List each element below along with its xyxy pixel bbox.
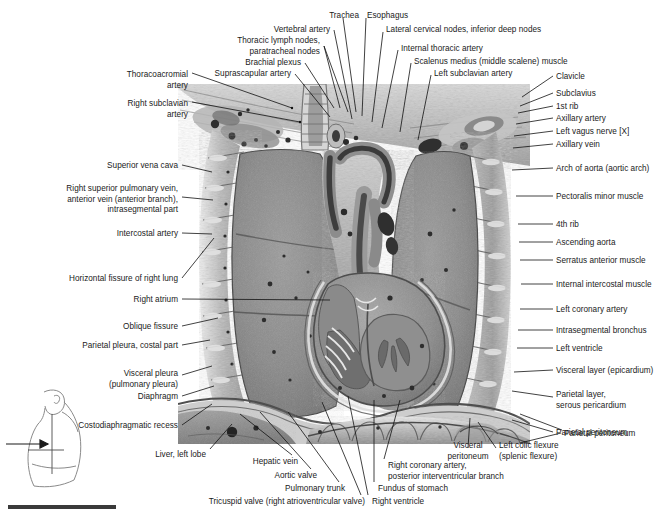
label-parietal-pleura-costal-part-line-0: Parietal pleura, costal part — [0, 341, 178, 352]
specimen-photograph — [178, 84, 530, 444]
label-left-vagus-nerve: Left vagus nerve [X] — [556, 127, 629, 138]
label-first-rib-line-0: 1st rib — [556, 102, 578, 113]
label-right-coronary-artery-line-1: posterior interventricular branch — [388, 472, 504, 483]
label-thoracic-lymph-nodes: Thoracic lymph nodes,paratracheal nodes — [0, 36, 320, 57]
label-esophagus: Esophagus — [367, 11, 408, 22]
label-clavicle-line-0: Clavicle — [556, 72, 585, 83]
label-internal-intercostal-muscle-line-0: Internal intercostal muscle — [556, 280, 652, 291]
label-left-subclavian-artery-line-0: Left subclavian artery — [434, 69, 512, 80]
label-parietal-layer-serous-pericardium-line-0: Parietal layer, — [556, 390, 626, 401]
label-fourth-rib: 4th rib — [556, 220, 579, 231]
label-parietal-peritoneum-bottom-line-0: Parietal peritoneum — [564, 429, 635, 440]
label-internal-thoracic-artery: Internal thoracic artery — [401, 44, 483, 55]
label-arch-of-aorta: Arch of aorta (aortic arch) — [556, 164, 649, 175]
label-right-superior-pulmonary-vein: Right superior pulmonary vein,anterior v… — [0, 184, 178, 216]
label-parietal-layer-serous-pericardium: Parietal layer,serous pericardium — [556, 390, 626, 411]
label-right-subclavian-artery-line-0: Right subclavian — [0, 99, 188, 110]
label-axillary-artery-line-0: Axillary artery — [556, 114, 606, 125]
label-vertebral-artery: Vertebral artery — [0, 25, 330, 36]
label-ascending-aorta-line-0: Ascending aorta — [556, 238, 615, 249]
label-thoracic-lymph-nodes-line-0: Thoracic lymph nodes, — [0, 36, 320, 47]
label-parietal-peritoneum-bottom: Parietal peritoneum — [564, 429, 635, 440]
label-right-ventricle-line-0: Right ventricle — [372, 497, 424, 508]
label-visceral-layer-epicardium: Visceral layer (epicardium) — [556, 366, 653, 377]
label-lateral-cervical-nodes: Lateral cervical nodes, inferior deep no… — [386, 25, 541, 36]
label-fundus-of-stomach: Fundus of stomach — [378, 484, 448, 495]
label-arch-of-aorta-line-0: Arch of aorta (aortic arch) — [556, 164, 649, 175]
label-right-atrium: Right atrium — [0, 295, 178, 306]
label-subclavius-line-0: Subclavius — [556, 89, 596, 100]
label-internal-intercostal-muscle: Internal intercostal muscle — [556, 280, 652, 291]
label-superior-vena-cava-line-0: Superior vena cava — [0, 161, 178, 172]
label-left-colic-flexure-line-0: Left colic flexure — [499, 441, 559, 452]
label-right-subclavian-artery: Right subclavianartery — [0, 99, 188, 120]
label-suprascapular-artery: Suprascapular artery — [0, 69, 291, 80]
label-right-atrium-line-0: Right atrium — [0, 295, 178, 306]
label-ascending-aorta: Ascending aorta — [556, 238, 615, 249]
label-serratus-anterior-muscle: Serratus anterior muscle — [556, 256, 646, 267]
label-intercostal-artery: Intercostal artery — [0, 229, 178, 240]
label-scalenus-medius-muscle: Scalenus medius (middle scalene) muscle — [414, 57, 568, 68]
label-parietal-layer-serous-pericardium-line-1: serous pericardium — [556, 401, 626, 412]
label-intrasegmental-bronchus: Intrasegmental bronchus — [556, 326, 647, 337]
label-visceral-layer-epicardium-line-0: Visceral layer (epicardium) — [556, 366, 653, 377]
label-right-superior-pulmonary-vein-line-1: anterior vein (anterior branch), — [0, 195, 178, 206]
label-oblique-fissure: Oblique fissure — [0, 322, 178, 333]
label-right-superior-pulmonary-vein-line-0: Right superior pulmonary vein, — [0, 184, 178, 195]
label-axillary-artery: Axillary artery — [556, 114, 606, 125]
anatomy-plate: ThoracoacromialarteryRight subclavianart… — [0, 0, 672, 519]
label-trachea: Trachea — [0, 11, 359, 22]
label-fourth-rib-line-0: 4th rib — [556, 220, 579, 231]
label-right-coronary-artery: Right coronary artery,posterior interven… — [388, 461, 504, 482]
label-first-rib: 1st rib — [556, 102, 578, 113]
label-right-ventricle: Right ventricle — [372, 497, 424, 508]
label-left-colic-flexure-line-1: (splenic flexure) — [499, 452, 559, 463]
label-left-ventricle-line-0: Left ventricle — [556, 344, 603, 355]
label-scalenus-medius-muscle-line-0: Scalenus medius (middle scalene) muscle — [414, 57, 568, 68]
label-oblique-fissure-line-0: Oblique fissure — [0, 322, 178, 333]
label-pectoralis-minor-muscle: Pectoralis minor muscle — [556, 192, 643, 203]
label-horizontal-fissure-of-right-lung-line-0: Horizontal fissure of right lung — [0, 274, 178, 285]
label-left-coronary-artery-line-0: Left coronary artery — [556, 305, 627, 316]
label-trachea-line-0: Trachea — [0, 11, 359, 22]
label-left-subclavian-artery: Left subclavian artery — [434, 69, 512, 80]
label-brachial-plexus-line-0: Brachial plexus — [0, 58, 301, 69]
label-right-coronary-artery-line-0: Right coronary artery, — [388, 461, 504, 472]
label-left-coronary-artery: Left coronary artery — [556, 305, 627, 316]
label-serratus-anterior-muscle-line-0: Serratus anterior muscle — [556, 256, 646, 267]
label-left-ventricle: Left ventricle — [556, 344, 603, 355]
label-internal-thoracic-artery-line-0: Internal thoracic artery — [401, 44, 483, 55]
label-right-subclavian-artery-line-1: artery — [0, 110, 188, 121]
label-visceral-pleura-line-0: Visceral pleura — [0, 369, 178, 380]
label-thoracoacromial-artery-line-1: artery — [0, 81, 188, 92]
label-fundus-of-stomach-line-0: Fundus of stomach — [378, 484, 448, 495]
label-axillary-vein-line-0: Axillary vein — [556, 140, 600, 151]
label-esophagus-line-0: Esophagus — [367, 11, 408, 22]
label-suprascapular-artery-line-0: Suprascapular artery — [0, 69, 291, 80]
label-right-superior-pulmonary-vein-line-2: intrasegmental part — [0, 205, 178, 216]
label-brachial-plexus: Brachial plexus — [0, 58, 301, 69]
label-vertebral-artery-line-0: Vertebral artery — [0, 25, 330, 36]
label-intercostal-artery-line-0: Intercostal artery — [0, 229, 178, 240]
label-intrasegmental-bronchus-line-0: Intrasegmental bronchus — [556, 326, 647, 337]
label-horizontal-fissure-of-right-lung: Horizontal fissure of right lung — [0, 274, 178, 285]
label-subclavius: Subclavius — [556, 89, 596, 100]
scale-bar — [8, 505, 116, 509]
label-pectoralis-minor-muscle-line-0: Pectoralis minor muscle — [556, 192, 643, 203]
label-left-colic-flexure: Left colic flexure(splenic flexure) — [499, 441, 559, 462]
label-parietal-pleura-costal-part: Parietal pleura, costal part — [0, 341, 178, 352]
label-axillary-vein: Axillary vein — [556, 140, 600, 151]
label-clavicle: Clavicle — [556, 72, 585, 83]
orientation-figure — [4, 386, 116, 490]
label-lateral-cervical-nodes-line-0: Lateral cervical nodes, inferior deep no… — [386, 25, 541, 36]
label-superior-vena-cava: Superior vena cava — [0, 161, 178, 172]
label-thoracic-lymph-nodes-line-1: paratracheal nodes — [0, 47, 320, 58]
label-left-vagus-nerve-line-0: Left vagus nerve [X] — [556, 127, 629, 138]
